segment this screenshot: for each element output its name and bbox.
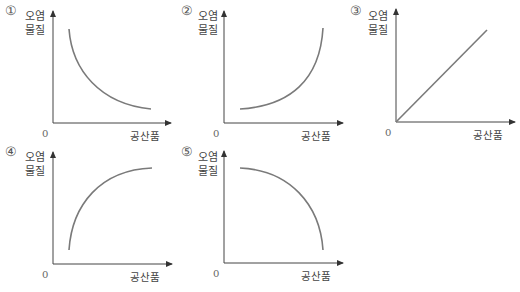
y-label-line2: 물질 bbox=[25, 165, 45, 178]
y-label-line2: 물질 bbox=[368, 24, 388, 37]
y-label-line1: 오염 bbox=[368, 10, 388, 23]
chart-5 bbox=[224, 151, 343, 263]
origin-label: 0 bbox=[42, 128, 48, 139]
y-label-line2: 물질 bbox=[198, 24, 218, 37]
option-number: ② bbox=[181, 3, 193, 18]
y-label-line2: 물질 bbox=[198, 165, 218, 178]
origin-label: 0 bbox=[385, 127, 391, 138]
option-number: ① bbox=[5, 3, 17, 18]
origin-label: 0 bbox=[213, 128, 219, 139]
option-number: ④ bbox=[5, 144, 17, 159]
origin-label: 0 bbox=[213, 268, 219, 279]
y-label-line1: 오염 bbox=[198, 10, 218, 23]
option-number: ⑤ bbox=[181, 144, 193, 159]
charts-canvas bbox=[0, 0, 520, 292]
x-label: 공산품 bbox=[130, 269, 160, 284]
curve bbox=[69, 168, 152, 250]
y-label-line1: 오염 bbox=[25, 10, 45, 23]
x-label: 공산품 bbox=[301, 268, 331, 283]
x-label: 공산품 bbox=[301, 128, 331, 143]
x-label: 공산품 bbox=[130, 128, 160, 143]
origin-label: 0 bbox=[42, 269, 48, 280]
y-label-line1: 오염 bbox=[198, 151, 218, 164]
curve bbox=[396, 30, 487, 122]
chart-1 bbox=[53, 11, 171, 123]
x-label: 공산품 bbox=[473, 127, 503, 142]
chart-4 bbox=[53, 152, 172, 264]
y-label-line2: 물질 bbox=[25, 24, 45, 37]
chart-3 bbox=[396, 9, 515, 122]
curve bbox=[69, 29, 151, 109]
y-label-line1: 오염 bbox=[25, 151, 45, 164]
curve bbox=[240, 168, 323, 250]
curve bbox=[240, 28, 323, 109]
option-number: ③ bbox=[350, 3, 362, 18]
chart-2 bbox=[224, 11, 343, 123]
